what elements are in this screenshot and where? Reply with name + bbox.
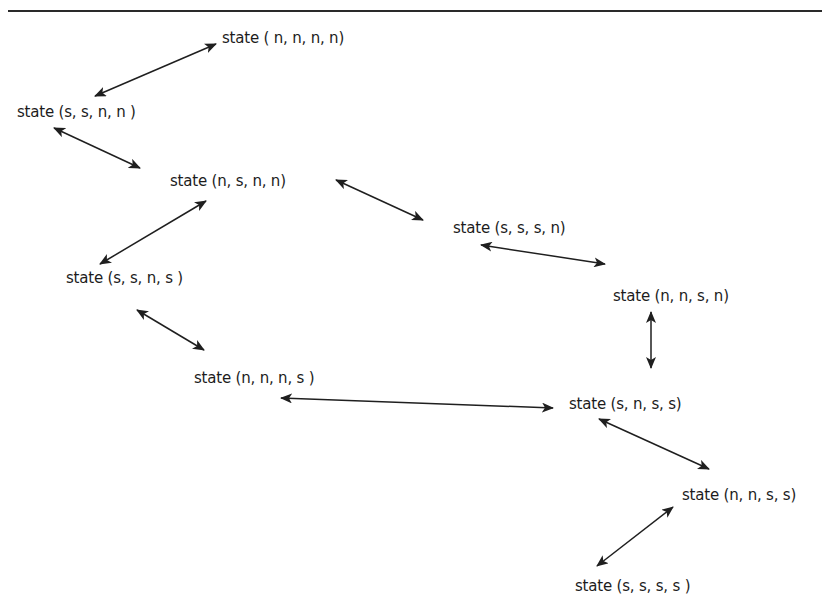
bidirectional-arrow-sssn-nnsn bbox=[481, 245, 605, 264]
state-node-ssns: state (s, s, n, s ) bbox=[66, 268, 183, 288]
state-node-nnsn: state (n, n, s, n) bbox=[613, 286, 729, 306]
state-node-ssss: state (s, s, s, s ) bbox=[575, 576, 690, 596]
state-node-snss: state (s, n, s, s) bbox=[569, 394, 681, 414]
state-node-nnnn: state ( n, n, n, n) bbox=[222, 28, 344, 48]
state-node-nnns: state (n, n, n, s ) bbox=[194, 368, 314, 388]
state-node-nsnn: state (n, s, n, n) bbox=[170, 171, 286, 191]
bidirectional-arrow-nnns-snss bbox=[281, 398, 553, 408]
state-node-sssn: state (s, s, s, n) bbox=[453, 218, 565, 238]
bidirectional-arrow-ssnn-nsnn bbox=[54, 128, 140, 168]
bidirectional-arrow-nsnn-ssns bbox=[100, 201, 206, 264]
bidirectional-arrow-ssns-nnns bbox=[137, 310, 204, 350]
bidirectional-arrow-nnnn-ssnn bbox=[95, 44, 216, 96]
state-node-ssnn: state (s, s, n, n ) bbox=[17, 102, 136, 122]
bidirectional-arrow-nsnn-sssn bbox=[336, 180, 423, 220]
bidirectional-arrow-snss-nnss bbox=[599, 419, 709, 469]
transition-edges bbox=[0, 0, 832, 612]
state-node-nnss: state (n, n, s, s) bbox=[682, 485, 796, 505]
bidirectional-arrow-nnss-ssss bbox=[597, 507, 673, 566]
